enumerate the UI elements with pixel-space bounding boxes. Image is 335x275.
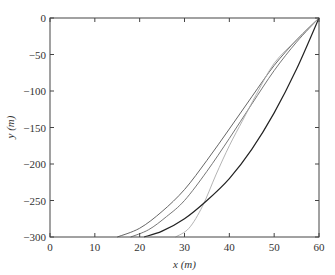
y-tick-label: −200	[23, 158, 46, 170]
y-axis-ticks: 0−50−100−150−200−250−300	[23, 12, 319, 243]
y-tick-label: −300	[23, 231, 46, 243]
x-tick-label: 50	[269, 241, 281, 253]
y-tick-label: −250	[23, 195, 46, 207]
x-tick-label: 40	[224, 241, 236, 253]
x-tick-label: 60	[314, 241, 326, 253]
x-tick-label: 10	[89, 241, 101, 253]
series-layer	[117, 18, 319, 237]
y-tick-label: −150	[23, 122, 46, 134]
x-tick-label: 20	[134, 241, 146, 253]
x-tick-label: 30	[179, 241, 191, 253]
plot-frame	[50, 18, 319, 237]
y-tick-label: 0	[41, 12, 47, 24]
series-line-3	[176, 18, 319, 237]
y-tick-label: −50	[29, 49, 47, 61]
chart: 0102030405060 0−50−100−150−200−250−300 x…	[0, 0, 335, 275]
y-tick-label: −100	[23, 85, 46, 97]
y-axis-label: y (m)	[4, 115, 17, 139]
x-tick-label: 0	[47, 241, 53, 253]
x-axis-label: x (m)	[172, 258, 196, 271]
series-line-2	[131, 18, 319, 237]
